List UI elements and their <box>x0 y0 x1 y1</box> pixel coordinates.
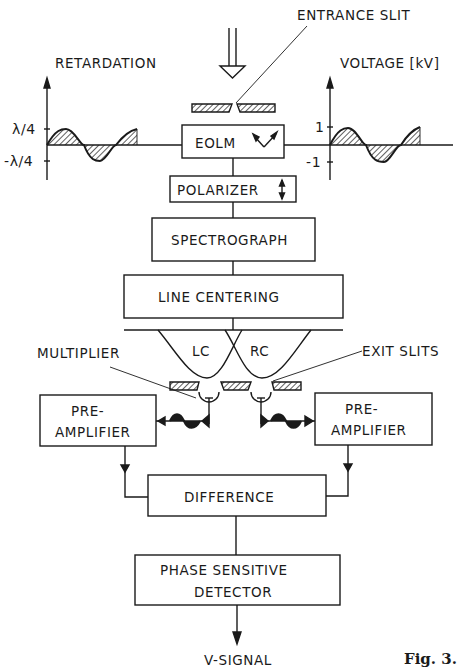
preamp-left-line1: PRE- <box>71 403 104 419</box>
exit-slit-center-jaw <box>221 382 251 390</box>
voltage-axis-arrow-icon <box>327 78 333 88</box>
rc-label: RC <box>250 343 269 359</box>
voltage-tick-top: 1 <box>315 119 325 135</box>
preamp-left-line2: AMPLIFIER <box>55 424 131 440</box>
v-signal-label: V-SIGNAL <box>204 652 272 668</box>
eolm-label: EOLM <box>195 135 236 151</box>
voltage-label: VOLTAGE [kV] <box>340 55 440 71</box>
line-centering-block: LINE CENTERING <box>124 275 343 318</box>
exit-slits-leader <box>273 351 362 381</box>
line-centering-label: LINE CENTERING <box>158 289 280 305</box>
exit-slits-label: EXIT SLITS <box>362 343 439 359</box>
psd-line2: DETECTOR <box>194 584 272 600</box>
voltage-tick-bottom: -1 <box>306 154 321 170</box>
polarizer-block: POLARIZER <box>170 176 296 202</box>
voltage-plot <box>327 78 420 180</box>
retardation-tick-top: λ/4 <box>12 121 36 137</box>
spectral-profiles <box>124 330 343 378</box>
entrance-slit-right-jaw <box>237 104 275 112</box>
spectrograph-block: SPECTROGRAPH <box>152 218 315 261</box>
retardation-plot <box>44 78 137 180</box>
retardation-label: RETARDATION <box>55 55 157 71</box>
retardation-axis-arrow-icon <box>44 78 50 88</box>
signal-right-waveform <box>261 414 315 428</box>
lc-label: LC <box>192 343 210 359</box>
difference-label: DIFFERENCE <box>184 489 274 505</box>
entrance-slit-left-jaw <box>192 104 232 112</box>
preamp-right-block: PRE- AMPLIFIER <box>315 393 432 445</box>
signal-left-waveform <box>156 414 209 428</box>
diagram-canvas: ENTRANCE SLIT RETARDATION λ/4 -λ/4 <box>0 0 463 668</box>
psd-block: PHASE SENSITIVE DETECTOR <box>135 555 340 605</box>
preamp-right-line1: PRE- <box>345 401 378 417</box>
polarizer-label: POLARIZER <box>177 182 259 198</box>
figure-caption: Fig. 3. <box>404 650 457 668</box>
entrance-slit-leader <box>236 26 307 103</box>
entrance-slit-label: ENTRANCE SLIT <box>297 7 411 23</box>
preamp-right-to-difference <box>326 445 352 496</box>
eolm-block: EOLM <box>182 125 284 158</box>
exit-slit-right-jaw <box>272 382 301 390</box>
spectrograph-label: SPECTROGRAPH <box>171 232 288 248</box>
retardation-tick-bottom: -λ/4 <box>4 153 33 169</box>
multiplier-label: MULTIPLIER <box>37 345 120 361</box>
psd-line1: PHASE SENSITIVE <box>160 562 288 578</box>
exit-slit-left-jaw <box>170 382 199 390</box>
preamp-left-block: PRE- AMPLIFIER <box>40 395 156 446</box>
preamp-right-line2: AMPLIFIER <box>331 422 407 438</box>
incoming-light-arrow-icon <box>220 28 245 78</box>
output-arrow-icon <box>233 605 241 644</box>
preamp-left-to-difference <box>121 446 148 497</box>
difference-block: DIFFERENCE <box>148 475 326 516</box>
